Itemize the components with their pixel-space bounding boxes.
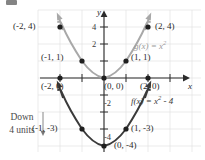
curve-f-equation-text: f(x) = x [131,96,158,106]
point-g-neg2-4 [57,24,62,29]
y-tick-label-neg4: -4 [104,133,111,142]
point-f-0-neg4 [101,143,106,148]
point-f-2-0 [145,75,150,80]
annotation-down-line2: 4 units [2,126,42,136]
point-label-g-neg1-1: (-1, 1) [41,53,64,62]
point-label-g-0-0: (0, 0) [104,82,124,91]
y-tick-label-2: 2 [92,40,96,49]
curve-g-exponent: 2 [163,39,166,46]
point-label-g-neg2-4: (-2, 4) [13,22,36,31]
curve-f-equation-label: f(x) = x2 - 4 [131,97,173,106]
point-label-f-1-neg3: (1, -3) [131,124,154,133]
y-tick-label-4: 4 [92,23,96,32]
point-label-g-1-1: (1, 1) [131,53,151,62]
point-label-f-neg2-0: (-2, 0) [41,82,64,91]
point-g-1-1 [123,58,128,63]
point-g-2-4 [145,24,150,29]
point-f-1-neg3 [123,126,128,131]
point-label-f-2-0: (2, 0) [140,82,160,91]
curve-g-equation-label: g(x) = x2 [134,42,166,51]
point-label-f-0-neg4: (0, -4) [114,141,137,150]
point-label-g-2-4: (2, 4) [155,22,175,31]
y-tick-label-neg2: -2 [104,99,111,108]
point-g-0-0 [101,75,106,80]
point-g-neg1-1 [79,58,84,63]
annotation-down-line1: Down [5,113,39,123]
point-f-neg1-neg3 [79,126,84,131]
curve-f-equation-tail: - 4 [161,96,173,106]
x-axis-label: x [188,82,192,91]
y-axis-label: y [97,8,101,17]
point-f-neg2-0 [57,75,62,80]
curve-g-equation-text: g(x) = x [134,41,163,51]
